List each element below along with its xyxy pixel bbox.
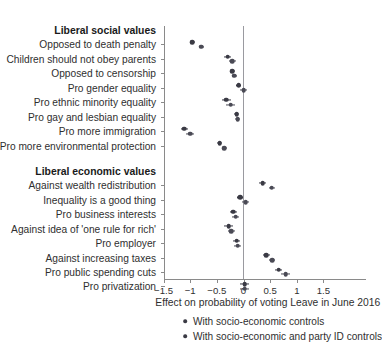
estimate-point	[188, 131, 193, 136]
category-label: Inequality is a good thing	[43, 194, 156, 205]
estimate-point	[270, 258, 275, 263]
category-label: Pro employer	[95, 238, 156, 249]
category-label: Opposed to death penalty	[39, 39, 156, 50]
legend-label: With socio-economic controls	[193, 314, 324, 329]
x-axis-tick-label: −1	[185, 285, 196, 296]
x-axis-line	[164, 279, 367, 280]
estimate-point	[242, 287, 247, 292]
category-label: Pro more immigration	[59, 126, 156, 137]
x-axis-tick	[217, 279, 218, 283]
group-heading: Liberal economic values	[35, 165, 156, 176]
legend-marker-dot-icon	[183, 319, 187, 323]
estimate-point	[235, 117, 240, 122]
category-label: Children should not obey parents	[6, 53, 156, 64]
estimate-point	[224, 98, 229, 103]
legend-marker-dot-icon	[183, 334, 187, 338]
category-label: Against wealth redistribution	[29, 180, 156, 191]
x-axis-tick-label: −0.5	[207, 285, 226, 296]
estimate-point	[182, 126, 187, 131]
estimate-point	[235, 243, 240, 248]
estimate-point	[229, 229, 234, 234]
category-label: Pro business interests	[56, 209, 156, 220]
x-axis-tick	[190, 279, 191, 283]
category-label: Pro privatization	[83, 281, 156, 292]
estimate-point	[230, 59, 235, 64]
x-axis-tick	[164, 279, 165, 283]
estimate-point	[199, 45, 204, 50]
estimate-point	[241, 88, 246, 93]
x-axis-tick	[297, 279, 298, 283]
category-label: Pro ethnic minority equality	[34, 97, 156, 108]
x-axis-tick-label: 1.5	[317, 285, 330, 296]
estimate-point	[276, 267, 281, 272]
estimate-point	[264, 253, 269, 258]
category-label: Against idea of 'one rule for rich'	[11, 223, 156, 234]
category-label: Pro gay and lesbian equality	[28, 111, 156, 122]
estimate-point	[190, 40, 195, 45]
estimate-point	[238, 195, 243, 200]
estimate-point	[222, 146, 227, 151]
category-label: Opposed to censorship	[51, 68, 156, 79]
estimate-point	[217, 141, 222, 146]
category-label-column: Liberal social valuesOpposed to death pe…	[0, 0, 160, 352]
y-axis-line	[164, 26, 165, 279]
estimate-point	[243, 200, 248, 205]
legend-label: With socio-economic and party ID control…	[193, 329, 382, 344]
group-heading: Liberal social values	[54, 25, 156, 36]
x-axis-tick	[323, 279, 324, 283]
estimate-point	[233, 214, 238, 219]
category-label: Pro gender equality	[68, 82, 156, 93]
estimate-point	[228, 102, 233, 107]
estimate-point	[260, 181, 265, 186]
x-axis-tick-label: 1	[294, 285, 299, 296]
estimate-point	[283, 272, 288, 277]
category-label: Pro more environmental protection	[0, 140, 156, 151]
estimate-point	[236, 83, 241, 88]
category-label: Pro public spending cuts	[45, 267, 156, 278]
x-axis-label: Effect on probability of voting Leave in…	[155, 297, 380, 308]
x-axis-tick-label: −1.5	[154, 285, 173, 296]
estimate-point	[232, 73, 237, 78]
category-label: Against increasing taxes	[46, 252, 156, 263]
x-axis-tick-label: 0.5	[263, 285, 276, 296]
estimate-point	[225, 54, 230, 59]
estimate-point	[269, 185, 274, 190]
x-axis-tick	[270, 279, 271, 283]
zero-reference-line	[243, 26, 245, 279]
